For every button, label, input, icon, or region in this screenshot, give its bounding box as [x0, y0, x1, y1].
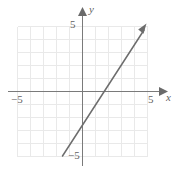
y-axis-tick-label-neg5: −5 [68, 150, 80, 161]
x-axis-tick-label-pos5: 5 [148, 94, 154, 105]
x-axis-name-label: x [166, 92, 171, 103]
y-axis-arrowhead [78, 7, 87, 16]
y-axis-tick-label-pos5: 5 [70, 19, 76, 30]
plot-line-series [63, 24, 147, 157]
y-axis [78, 7, 87, 166]
coordinate-plane-figure: −5 5 5 −5 x y [0, 0, 176, 172]
x-axis [8, 87, 168, 96]
x-axis-tick-label-neg5: −5 [11, 94, 23, 105]
plot-line [63, 30, 145, 156]
graph-canvas [0, 0, 176, 172]
y-axis-name-label: y [89, 4, 94, 15]
plot-line-arrowhead [138, 24, 146, 34]
